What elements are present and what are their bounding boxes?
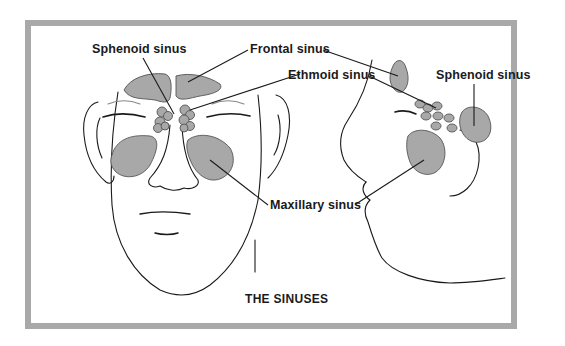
label-ethmoid-sinus: Ethmoid sinus: [288, 68, 375, 82]
label-frontal-sinus: Frontal sinus: [250, 42, 330, 56]
figure-title: THE SINUSES: [245, 292, 328, 306]
frontal-sinus-left: [124, 74, 171, 102]
label-sphenoid-sinus-front: Sphenoid sinus: [92, 42, 186, 56]
right-eye: [207, 114, 250, 117]
sphenoid-sinus-side: [460, 107, 491, 142]
frontal-sinus-right: [176, 74, 221, 99]
mouth: [140, 212, 190, 214]
label-sphenoid-sinus-side: Sphenoid sinus: [436, 68, 530, 82]
profile-jaw: [363, 182, 505, 283]
label-maxillary-sinus: Maxillary sinus: [270, 198, 361, 212]
left-eye: [103, 114, 145, 117]
maxillary-sinus-left: [111, 136, 157, 177]
